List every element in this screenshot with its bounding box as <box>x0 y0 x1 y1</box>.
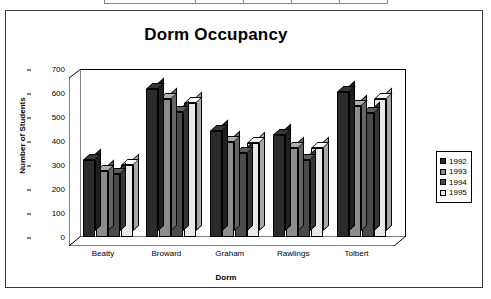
bar-side-face <box>133 154 139 231</box>
bar-side-face <box>298 137 304 231</box>
y-axis-tick-label: 0 <box>31 233 69 242</box>
bar-side-face <box>386 88 392 231</box>
x-axis-category-label: Tolbert <box>322 249 392 258</box>
legend-item-1993: 1993 <box>440 167 467 176</box>
legend-label: 1994 <box>449 178 467 187</box>
y-axis-title: Number of Students <box>18 76 27 196</box>
legend-label: 1992 <box>449 157 467 166</box>
legend-swatch-icon <box>440 169 446 175</box>
y-axis-tick-label: 100 <box>31 209 69 218</box>
bar-rawlings-1992 <box>273 135 285 237</box>
bar-side-face <box>158 78 164 231</box>
bar-side-face <box>222 120 228 231</box>
bar-broward-1992 <box>146 89 158 237</box>
legend-item-1995: 1995 <box>440 188 467 197</box>
table-cell <box>292 0 340 3</box>
legend-swatch-icon <box>440 179 446 185</box>
x-axis-category-label: Beatty <box>68 249 138 258</box>
bar-graham-1992 <box>210 131 222 237</box>
bar-front-face <box>337 92 349 237</box>
clipped-table-fragment <box>104 0 388 4</box>
bar-side-face <box>183 101 189 231</box>
y-axis-tick-mark <box>27 117 31 118</box>
bar-tolbert-1992 <box>337 92 349 237</box>
plot-area: 0100200300400500600700 BeattyBrowardGrah… <box>69 69 406 246</box>
legend-swatch-icon <box>440 158 446 164</box>
legend-item-1994: 1994 <box>440 178 467 187</box>
y-axis-tick-mark <box>27 141 31 142</box>
y-axis-tick-mark <box>27 189 31 190</box>
bar-side-face <box>323 137 329 231</box>
chart-container: Dorm Occupancy Number of Students 010020… <box>5 10 483 288</box>
x-axis-category-label: Graham <box>195 249 265 258</box>
y-axis-tick-mark <box>27 93 31 94</box>
bar-side-face <box>95 149 101 231</box>
table-cell <box>105 0 196 3</box>
bar-front-face <box>83 160 95 237</box>
bar-side-face <box>374 102 380 231</box>
bar-side-face <box>196 91 202 231</box>
table-cell <box>196 0 244 3</box>
x-axis-category-label: Broward <box>131 249 201 258</box>
bar-side-face <box>259 132 265 231</box>
legend-swatch-icon <box>440 190 446 196</box>
y-axis-tick-mark <box>27 213 31 214</box>
x-axis-category-label: Rawlings <box>258 249 328 258</box>
y-axis-tick-label: 600 <box>31 89 69 98</box>
y-axis-tick-label: 700 <box>31 65 69 74</box>
bar-beatty-1992 <box>83 160 95 237</box>
y-axis-tick-mark <box>27 237 31 238</box>
plot-wrapper: Number of Students 010020030040050060070… <box>6 11 482 287</box>
bar-side-face <box>349 80 355 231</box>
chart-legend: 1992199319941995 <box>436 151 472 203</box>
bar-side-face <box>247 142 253 231</box>
y-axis-tick-label: 400 <box>31 137 69 146</box>
bar-side-face <box>310 149 316 231</box>
legend-label: 1993 <box>449 167 467 176</box>
bar-front-face <box>273 135 285 237</box>
x-axis-title: Dorm <box>56 273 396 282</box>
bar-side-face <box>171 88 177 231</box>
table-cell <box>340 0 387 3</box>
bar-front-face <box>210 131 222 237</box>
y-axis-tick-label: 200 <box>31 185 69 194</box>
plot-left-wall <box>69 69 81 246</box>
bar-side-face <box>285 124 291 231</box>
bar-side-face <box>361 95 367 231</box>
y-axis-tick-label: 500 <box>31 113 69 122</box>
table-cell <box>244 0 292 3</box>
bar-front-face <box>146 89 158 237</box>
y-axis-tick-mark <box>27 69 31 70</box>
plot-floor <box>69 236 406 246</box>
bar-side-face <box>234 131 240 231</box>
y-axis-tick-label: 300 <box>31 161 69 170</box>
legend-label: 1995 <box>449 188 467 197</box>
legend-item-1992: 1992 <box>440 157 467 166</box>
y-axis-tick-mark <box>27 165 31 166</box>
